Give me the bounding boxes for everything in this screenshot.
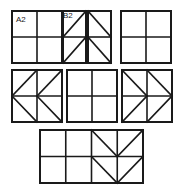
cell-diagonal — [92, 130, 118, 157]
cell-diagonal — [122, 70, 147, 96]
cell-diagonal — [37, 96, 62, 122]
cell-diagonal — [122, 96, 147, 122]
panel-label-a2: A2 — [16, 16, 26, 24]
panel-4 — [121, 11, 171, 63]
cell-diagonal — [88, 37, 111, 63]
cell-diagonal — [12, 70, 37, 96]
panel-7 — [122, 70, 172, 122]
cell-diagonal — [88, 11, 111, 37]
panel-5 — [12, 70, 62, 122]
cell-diagonal — [37, 70, 62, 96]
cell-diagonal — [117, 130, 143, 157]
cell-diagonal — [63, 37, 86, 63]
cell-diagonal — [92, 157, 118, 184]
panel-3 — [88, 11, 111, 63]
cell-diagonal — [147, 70, 172, 96]
grid-diagram-figure — [0, 0, 180, 196]
cell-diagonal — [12, 96, 37, 122]
panel-8 — [40, 130, 143, 183]
cell-diagonal — [117, 157, 143, 184]
cell-diagonal — [147, 96, 172, 122]
panel-label-b2: B2 — [63, 12, 73, 20]
panel-6 — [67, 70, 117, 122]
